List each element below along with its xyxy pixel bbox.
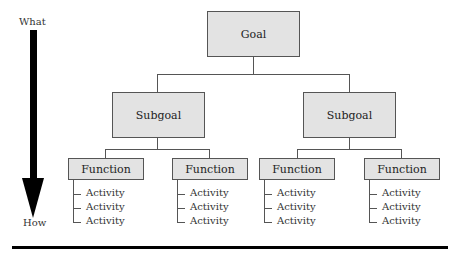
activity-tick (73, 222, 81, 223)
activity-tick (177, 208, 185, 209)
connector (157, 74, 350, 75)
activity-tick (73, 208, 81, 209)
connector (253, 57, 254, 74)
activity-tick (264, 222, 272, 223)
subgoal-label: Subgoal (327, 109, 372, 122)
connector (105, 149, 106, 158)
what-label: What (19, 16, 46, 27)
connector (401, 149, 402, 158)
activity-bracket (73, 180, 74, 223)
subgoal-box-1: Subgoal (112, 92, 205, 138)
activity-bracket (177, 180, 178, 223)
bottom-rule (12, 246, 448, 249)
activity-item: Activity (277, 201, 316, 213)
connector (349, 74, 350, 92)
function-box-3: Function (259, 158, 335, 180)
activity-bracket (264, 180, 265, 223)
activity-tick (177, 222, 185, 223)
activity-item: Activity (190, 187, 229, 199)
activity-bracket (369, 180, 370, 223)
activity-item: Activity (277, 187, 316, 199)
activity-item: Activity (382, 187, 421, 199)
activity-tick (73, 194, 81, 195)
function-label: Function (377, 163, 427, 176)
activity-item: Activity (190, 201, 229, 213)
function-box-1: Function (68, 158, 144, 180)
activity-item: Activity (86, 201, 125, 213)
activity-tick (369, 194, 377, 195)
how-label: How (23, 217, 46, 228)
function-label: Function (272, 163, 322, 176)
activity-tick (177, 194, 185, 195)
activity-item: Activity (277, 215, 316, 227)
connector (349, 138, 350, 149)
subgoal-label: Subgoal (136, 109, 181, 122)
activity-tick (369, 208, 377, 209)
function-box-2: Function (172, 158, 248, 180)
goal-label: Goal (241, 28, 267, 41)
function-label: Function (185, 163, 235, 176)
function-label: Function (81, 163, 131, 176)
goal-box: Goal (207, 11, 300, 57)
subgoal-box-2: Subgoal (303, 92, 396, 138)
connector (209, 149, 210, 158)
activity-item: Activity (86, 215, 125, 227)
activity-tick (369, 222, 377, 223)
connector (297, 149, 402, 150)
activity-tick (264, 208, 272, 209)
what-how-arrow-icon (22, 30, 44, 220)
connector (157, 74, 158, 92)
activity-item: Activity (382, 215, 421, 227)
activity-item: Activity (382, 201, 421, 213)
activity-item: Activity (86, 187, 125, 199)
connector (297, 149, 298, 158)
activity-item: Activity (190, 215, 229, 227)
connector (157, 138, 158, 149)
connector (105, 149, 210, 150)
function-box-4: Function (364, 158, 440, 180)
activity-tick (264, 194, 272, 195)
